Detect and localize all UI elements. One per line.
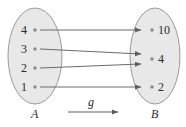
set-b-ellipse [130,8,180,104]
set-a-element-label-2: 2 [21,62,27,74]
set-a-element-label-1: 1 [21,81,27,93]
set-a-element-dot-1 [33,85,36,88]
set-a-element-label-4: 4 [21,24,27,36]
set-a-element-dot-4 [33,28,36,31]
set-b-element-dot-10 [150,28,153,31]
set-b-label: B [151,108,158,120]
function-mapping-diagram: 4 3 2 1 10 4 2 A B g [0,0,186,127]
set-b-element-dot-2 [150,85,153,88]
set-a-element-label-3: 3 [21,43,27,55]
set-a-element-dot-3 [33,47,36,50]
set-b-element-dot-4 [150,57,153,60]
set-a-element-dot-2 [33,66,36,69]
set-b-element-label-2: 2 [158,81,164,93]
set-b-element-label-4: 4 [158,53,164,65]
set-a-ellipse [8,8,62,104]
function-name-label: g [88,96,94,108]
set-a-label: A [31,108,38,120]
set-b-element-label-10: 10 [158,24,170,36]
